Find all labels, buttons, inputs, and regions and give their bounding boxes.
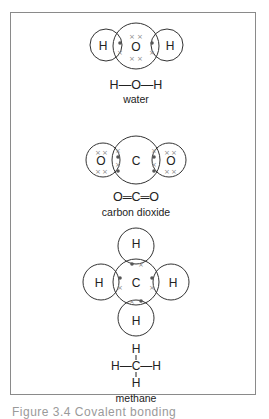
electron-cross-icon: × <box>95 149 101 157</box>
electron-cross-icon: × <box>151 161 157 169</box>
electron-cross-icon: × <box>149 49 155 57</box>
atom-symbol: H <box>95 276 104 290</box>
electron-cross-icon: × <box>117 49 123 57</box>
atom-symbol: O <box>131 40 140 54</box>
electron-dot-icon <box>150 276 154 280</box>
electron-cross-icon: × <box>129 298 135 306</box>
electron-cross-icon: × <box>137 55 143 63</box>
electron-cross-icon: × <box>137 33 143 41</box>
electron-dot-icon <box>150 41 154 45</box>
electron-cross-icon: × <box>138 261 144 269</box>
methane-formula-top-h: H <box>132 342 141 356</box>
atom-symbol: H <box>132 314 141 328</box>
methane-formula-bottom-h: H <box>132 376 141 390</box>
electron-cross-icon: × <box>115 147 121 155</box>
electron-cross-icon: × <box>164 168 170 176</box>
electron-dot-icon <box>116 169 120 173</box>
electron-cross-icon: × <box>115 161 121 169</box>
figure-caption: Figure 3.4 Covalent bonding <box>12 405 176 419</box>
electron-cross-icon: × <box>171 168 177 176</box>
carbon-dioxide-label: carbon dioxide <box>102 206 170 218</box>
electron-cross-icon: × <box>129 55 135 63</box>
electron-cross-icon: × <box>151 147 157 155</box>
electron-cross-icon: × <box>129 33 135 41</box>
electron-dot-icon <box>118 41 122 45</box>
electron-cross-icon: × <box>164 149 170 157</box>
electron-cross-icon: × <box>102 168 108 176</box>
electron-cross-icon: × <box>117 284 123 292</box>
electron-cross-icon: × <box>102 149 108 157</box>
methane-molecule: HHCHH×××× <box>83 228 189 336</box>
atom-symbol: H <box>132 237 141 251</box>
carbon-dioxide-structural-formula: O═C═O <box>113 190 159 204</box>
electron-dot-icon <box>130 262 134 266</box>
methane-name: methane <box>116 392 157 404</box>
electron-dot-icon <box>152 169 156 173</box>
electron-dot-icon <box>152 155 156 159</box>
atom-symbol: H <box>169 276 178 290</box>
electron-dot-icon <box>116 155 120 159</box>
electron-cross-icon: × <box>95 168 101 176</box>
atom-symbol: C <box>132 154 141 168</box>
atom-symbol: H <box>99 39 108 53</box>
water-structural-formula: H—O—H <box>110 78 163 92</box>
atom-symbol: H <box>166 39 175 53</box>
water-molecule: HOH×××××× <box>90 23 183 69</box>
electron-cross-icon: × <box>171 149 177 157</box>
carbon-dioxide-molecule: OCO×××××××××××× <box>86 136 186 184</box>
electron-dot-icon <box>139 299 143 303</box>
electron-cross-icon: × <box>149 284 155 292</box>
electron-dot-icon <box>118 276 122 280</box>
water-label: water <box>122 93 149 105</box>
atom-symbol: C <box>132 276 141 290</box>
methane-formula-middle: H—C—H <box>111 359 161 373</box>
